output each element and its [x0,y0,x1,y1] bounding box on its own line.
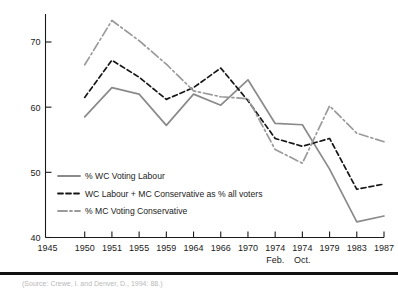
legend-label: % MC Voting Conservative [85,206,187,216]
series-line [85,80,384,222]
x-tick-label: 1974 [292,243,312,253]
x-tick-sublabel: Oct. [294,255,311,265]
footer-divider [0,272,398,275]
x-tick-label: 1950 [75,243,95,253]
x-tick-label: 1987 [374,243,394,253]
y-tick-label: 70 [30,37,40,47]
x-tick-label: 1983 [347,243,367,253]
x-axis-origin-label: 1945 [37,243,57,253]
x-tick-label: 1964 [184,243,204,253]
chart-figure: 40506070 1945195019511955195919641966197… [0,0,398,289]
x-tick-label: 1970 [238,243,258,253]
y-tick-label: 60 [30,103,40,113]
x-tick-label: 1959 [156,243,176,253]
y-tick-label: 40 [30,233,40,243]
y-tick-label: 50 [30,168,40,178]
series-line [85,60,384,189]
figure-caption: (Source: Crewe, I. and Denver, D., 1994:… [22,280,362,288]
x-tick-label: 1951 [102,243,122,253]
x-tick-label: 1974 [265,243,285,253]
legend-label: % WC Voting Labour [85,171,165,181]
x-tick-sublabel: Feb. [266,255,284,265]
x-tick-label: 1966 [211,243,231,253]
x-tick-label: 1955 [129,243,149,253]
chart-legend: % WC Voting LabourWC Labour + MC Conserv… [58,171,262,216]
line-chart: 40506070 1945195019511955195919641966197… [0,0,398,289]
x-tick-label: 1979 [320,243,340,253]
y-axis-ticks: 40506070 [30,37,51,243]
legend-label: WC Labour + MC Conservative as % all vot… [85,189,262,199]
x-axis-ticks: 194519501951195519591964196619701974Feb.… [37,232,394,266]
